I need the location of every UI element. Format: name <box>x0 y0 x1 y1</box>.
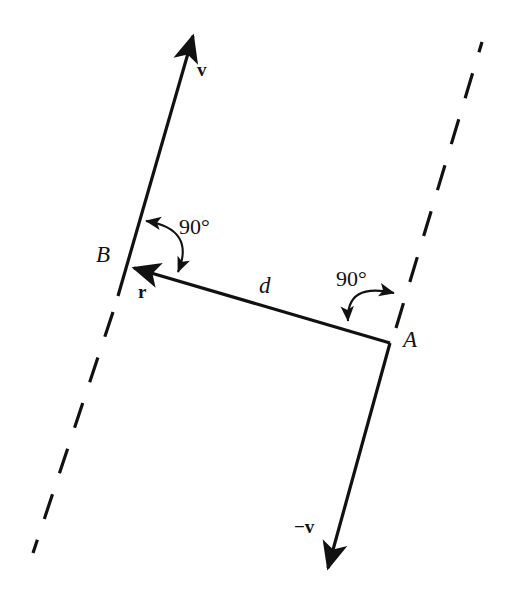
angle-label-at-a: 90° <box>336 268 367 290</box>
right-line-dashed-continuation <box>396 42 482 328</box>
vector-label-v: v <box>197 60 207 79</box>
vector-label-r: r <box>138 282 146 301</box>
velocity-negative-v-arrow <box>328 343 390 568</box>
distance-label-d: d <box>259 274 271 297</box>
figure-canvas: B A v −v r d 90° 90° <box>0 0 506 595</box>
vector-label-negative-v: −v <box>294 517 314 536</box>
right-angle-arc-at-a <box>348 291 394 321</box>
point-label-a: A <box>403 328 417 351</box>
point-label-b: B <box>96 243 110 266</box>
angle-label-at-b: 90° <box>179 216 210 238</box>
diagram-drawing <box>0 0 506 595</box>
left-line-dashed-continuation <box>33 312 113 553</box>
right-angle-arc-at-b <box>146 221 183 272</box>
